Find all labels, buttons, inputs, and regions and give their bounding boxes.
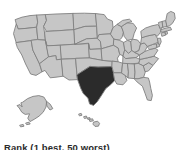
us-map-container	[0, 0, 187, 142]
map-caption: Rank (1 best, 50 worst)	[4, 142, 187, 150]
us-rank-map-figure: Rank (1 best, 50 worst)	[0, 0, 187, 150]
state-new-york[interactable]	[141, 25, 162, 38]
state-hawaii-molokai[interactable]	[88, 118, 90, 120]
state-texas[interactable]	[77, 66, 115, 105]
state-washington[interactable]	[16, 15, 38, 29]
state-montana[interactable]	[44, 13, 75, 31]
us-map-svg	[0, 0, 187, 142]
state-hawaii-oahu[interactable]	[84, 116, 87, 118]
alaska-aleutians-2[interactable]	[20, 124, 24, 126]
hawaii-inset	[79, 113, 100, 126]
state-alaska[interactable]	[17, 96, 47, 122]
state-colorado[interactable]	[61, 44, 90, 60]
state-wyoming[interactable]	[45, 30, 75, 46]
state-hawaii-kauai[interactable]	[79, 113, 82, 115]
state-new-mexico[interactable]	[62, 59, 78, 80]
alaska-panhandle[interactable]	[47, 101, 53, 110]
state-arkansas[interactable]	[112, 61, 123, 73]
state-maine[interactable]	[166, 11, 175, 26]
alaska-inset	[17, 96, 53, 127]
state-massachusetts[interactable]	[161, 27, 172, 32]
state-alabama[interactable]	[128, 64, 135, 79]
alaska-aleutians[interactable]	[26, 122, 30, 124]
state-florida[interactable]	[134, 77, 152, 100]
state-hawaii-big-island[interactable]	[93, 121, 99, 126]
